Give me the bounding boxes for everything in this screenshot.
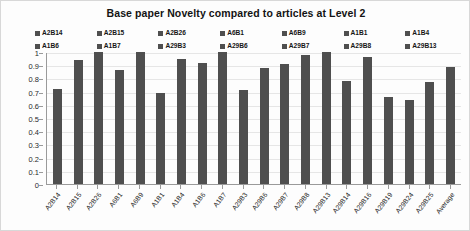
x-axis-tick-label: A29B7 bbox=[272, 191, 290, 211]
chart-container: Base paper Novelty compared to articles … bbox=[0, 0, 470, 231]
y-axis-tick-mark bbox=[39, 93, 43, 94]
legend-item[interactable]: A29B6 bbox=[220, 41, 282, 52]
chart-title: Base paper Novelty compared to articles … bbox=[1, 7, 470, 19]
legend-item[interactable]: A6B1 bbox=[220, 28, 282, 39]
bar[interactable] bbox=[94, 52, 103, 184]
x-axis-tick-label: A29B14 bbox=[331, 191, 351, 214]
bar[interactable] bbox=[384, 97, 393, 184]
legend-swatch-icon bbox=[97, 44, 102, 49]
x-axis-tick-label: A2B26 bbox=[85, 191, 103, 211]
legend-swatch-icon bbox=[158, 31, 163, 36]
bar[interactable] bbox=[156, 93, 165, 184]
bar[interactable] bbox=[425, 82, 434, 184]
legend-item[interactable]: A29B7 bbox=[282, 41, 344, 52]
x-axis-tick-mark bbox=[263, 185, 264, 189]
bar[interactable] bbox=[115, 70, 124, 184]
x-axis-tick-mark bbox=[388, 185, 389, 189]
bar[interactable] bbox=[363, 57, 372, 184]
bar[interactable] bbox=[342, 81, 351, 184]
bar[interactable] bbox=[53, 89, 62, 184]
legend-item[interactable]: A29B8 bbox=[344, 41, 406, 52]
legend-label: A29B3 bbox=[165, 43, 186, 50]
x-axis-tick-mark bbox=[97, 185, 98, 189]
legend-item[interactable]: A6B9 bbox=[282, 28, 344, 39]
x-axis-category: A1B6 bbox=[197, 185, 206, 231]
bar[interactable] bbox=[280, 64, 289, 184]
x-axis-tick-mark bbox=[201, 185, 202, 189]
x-axis-tick-label: Average bbox=[435, 191, 456, 215]
x-axis-tick-label: A29B24 bbox=[394, 191, 414, 214]
y-axis-tick-label: 0.6 bbox=[29, 101, 39, 110]
x-axis-tick-label: A29B8 bbox=[292, 191, 310, 211]
y-axis-tick-mark bbox=[39, 79, 43, 80]
x-axis: A2B14A2B15A2B26A6B1A6B9A1B1A1B4A1B6A1B7A… bbox=[46, 185, 461, 231]
chart-legend: A2B14A2B15A2B26A6B1A6B9A1B1A1B4A1B6A1B7A… bbox=[35, 28, 467, 52]
legend-item[interactable]: A29B13 bbox=[405, 41, 467, 52]
bar[interactable] bbox=[136, 52, 145, 184]
x-axis-tick-mark bbox=[305, 185, 306, 189]
x-axis-tick-mark bbox=[180, 185, 181, 189]
x-axis-tick-mark bbox=[429, 185, 430, 189]
x-axis-tick-mark bbox=[118, 185, 119, 189]
x-axis-category: A29B3 bbox=[239, 185, 248, 231]
y-axis-tick-label: 0.9 bbox=[29, 62, 39, 71]
legend-label: A2B14 bbox=[42, 30, 63, 37]
x-axis-tick-label: A29B6 bbox=[251, 191, 269, 211]
bar[interactable] bbox=[177, 59, 186, 184]
y-axis-tick-mark bbox=[39, 185, 43, 186]
bar[interactable] bbox=[446, 67, 455, 184]
x-axis-category: A29B7 bbox=[280, 185, 289, 231]
x-axis-category: A29B24 bbox=[405, 185, 414, 231]
x-axis-category: A1B1 bbox=[156, 185, 165, 231]
bar[interactable] bbox=[239, 90, 248, 184]
legend-label: A1B4 bbox=[412, 30, 429, 37]
legend-label: A6B1 bbox=[227, 30, 244, 37]
legend-item[interactable]: A1B1 bbox=[344, 28, 406, 39]
bar[interactable] bbox=[301, 55, 310, 184]
legend-label: A29B6 bbox=[227, 43, 248, 50]
x-axis-category: A29B13 bbox=[322, 185, 331, 231]
legend-item[interactable]: A29B3 bbox=[158, 41, 220, 52]
legend-swatch-icon bbox=[97, 31, 102, 36]
legend-label: A1B6 bbox=[42, 43, 59, 50]
y-axis: 10.90.80.70.60.50.40.30.20.10 bbox=[7, 47, 43, 191]
x-axis-tick-label: A6B9 bbox=[129, 191, 145, 208]
x-axis-category: A2B14 bbox=[52, 185, 61, 231]
y-axis-tick-mark bbox=[39, 159, 43, 160]
y-axis-tick-mark bbox=[39, 145, 43, 146]
legend-item[interactable]: A1B7 bbox=[97, 41, 159, 52]
x-axis-tick-mark bbox=[367, 185, 368, 189]
bar[interactable] bbox=[218, 52, 227, 184]
bar[interactable] bbox=[198, 63, 207, 184]
x-axis-tick-label: A29B19 bbox=[373, 191, 393, 214]
x-axis-tick-mark bbox=[346, 185, 347, 189]
x-axis-category: A29B6 bbox=[259, 185, 268, 231]
legend-item[interactable]: A2B14 bbox=[35, 28, 97, 39]
x-axis-tick-mark bbox=[222, 185, 223, 189]
legend-item[interactable]: A2B26 bbox=[158, 28, 220, 39]
bar[interactable] bbox=[260, 68, 269, 184]
x-axis-tick-label: A29B3 bbox=[230, 191, 248, 211]
legend-item[interactable]: A1B4 bbox=[405, 28, 467, 39]
x-axis-tick-mark bbox=[139, 185, 140, 189]
x-axis-category: A2B15 bbox=[73, 185, 82, 231]
x-axis-category: A29B16 bbox=[363, 185, 372, 231]
bar[interactable] bbox=[405, 100, 414, 184]
y-axis-tick-label: 0.1 bbox=[29, 167, 39, 176]
x-axis-tick-label: A1B4 bbox=[170, 191, 186, 208]
x-axis-tick-label: A29B25 bbox=[414, 191, 434, 214]
legend-item[interactable]: A1B6 bbox=[35, 41, 97, 52]
x-axis-category: A29B19 bbox=[384, 185, 393, 231]
bar[interactable] bbox=[74, 60, 83, 184]
y-axis-tick-mark bbox=[39, 66, 43, 67]
bar[interactable] bbox=[322, 52, 331, 184]
legend-item[interactable]: A2B15 bbox=[97, 28, 159, 39]
legend-swatch-icon bbox=[158, 44, 163, 49]
x-axis-tick-mark bbox=[243, 185, 244, 189]
y-axis-tick-label: 0.5 bbox=[29, 115, 39, 124]
x-axis-tick-label: A2B15 bbox=[64, 191, 82, 211]
x-axis-tick-label: A29B16 bbox=[352, 191, 372, 214]
x-axis-category: A1B7 bbox=[218, 185, 227, 231]
legend-swatch-icon bbox=[282, 44, 287, 49]
x-axis-category: A29B8 bbox=[301, 185, 310, 231]
